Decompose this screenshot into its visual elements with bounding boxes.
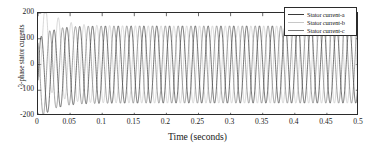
x-tick-label: 0.15: [127, 117, 140, 126]
y-tick-label: 200: [0, 8, 34, 16]
x-axis-title: Time (seconds): [37, 131, 358, 142]
legend-color-swatch-c: [288, 30, 304, 31]
x-tick-label: 0.2: [161, 117, 171, 126]
legend-item: Stator current-b: [287, 18, 354, 26]
x-tick-label: 0.5: [353, 117, 363, 126]
x-axis-tick-labels: 00.050.10.150.20.250.30.350.40.450.5: [0, 117, 371, 129]
legend-label-a: Stator current-a: [307, 11, 345, 18]
x-tick-label: 0.4: [289, 117, 299, 126]
x-tick-label: 0.05: [62, 117, 75, 126]
legend-color-swatch-b: [288, 22, 304, 23]
x-tick-label: 0.45: [319, 117, 332, 126]
legend-label-c: Stator current-c: [307, 27, 345, 34]
legend-color-swatch-a: [288, 14, 304, 15]
y-tick-label: 0: [0, 60, 34, 68]
y-tick-label: -100: [0, 85, 34, 93]
x-tick-label: 0.1: [96, 117, 106, 126]
legend-box: Stator current-a Stator current-b Stator…: [284, 7, 357, 36]
y-tick-label: 100: [0, 34, 34, 42]
legend-item: Stator current-c: [287, 27, 354, 35]
legend-label-b: Stator current-b: [307, 19, 345, 26]
legend-item: Stator current-a: [287, 10, 354, 18]
figure-canvas: 3-phase stator currents 2001000-100-200 …: [0, 0, 371, 150]
x-tick-label: 0.25: [191, 117, 204, 126]
x-tick-label: 0.3: [225, 117, 235, 126]
x-tick-label: 0: [35, 117, 39, 126]
x-tick-label: 0.35: [255, 117, 268, 126]
